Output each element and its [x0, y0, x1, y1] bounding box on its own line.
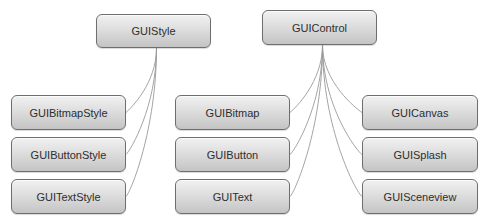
node-label: GUICanvas	[392, 107, 449, 119]
node-guibutton: GUIButton	[175, 137, 290, 172]
node-label: GUIControl	[292, 22, 347, 34]
node-label: GUITextStyle	[36, 191, 100, 203]
node-label: GUIButton	[207, 149, 258, 161]
node-guibitmapstyle: GUIBitmapStyle	[11, 95, 126, 130]
node-guibuttonstyle: GUIButtonStyle	[11, 137, 126, 172]
node-guicanvas: GUICanvas	[362, 95, 478, 130]
node-label: GUIButtonStyle	[31, 149, 107, 161]
connector-guicontrol-guibutton	[290, 45, 323, 155]
node-label: GUISceneview	[384, 191, 457, 203]
node-guitextstyle: GUITextStyle	[11, 179, 126, 214]
node-guistyle: GUIStyle	[96, 14, 211, 48]
node-label: GUIStyle	[131, 25, 175, 37]
connector-guicontrol-guibitmap	[290, 45, 323, 113]
node-guibitmap: GUIBitmap	[175, 95, 290, 130]
connector-guistyle-guibuttonstyle	[126, 48, 157, 155]
node-label: GUIBitmap	[206, 107, 260, 119]
connector-guistyle-guitextstyle	[126, 48, 157, 197]
node-label: GUIBitmapStyle	[29, 107, 107, 119]
node-guitext: GUIText	[175, 179, 290, 214]
connector-guicontrol-guitext	[290, 45, 323, 197]
node-guisceneview: GUISceneview	[362, 179, 478, 214]
connector-guistyle-guibitmapstyle	[126, 48, 157, 113]
node-guisplash: GUISplash	[362, 137, 478, 172]
connector-guicontrol-guicanvas	[323, 45, 363, 113]
node-label: GUISplash	[393, 149, 446, 161]
connector-guicontrol-guisplash	[323, 45, 363, 155]
node-guicontrol: GUIControl	[262, 10, 377, 45]
connector-guicontrol-guisceneview	[323, 45, 363, 197]
node-label: GUIText	[213, 191, 253, 203]
